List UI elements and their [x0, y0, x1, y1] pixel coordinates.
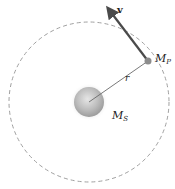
orbit-diagram: v MP r MS	[0, 0, 175, 189]
planet-label: MP	[154, 52, 171, 66]
sun-label: MS	[111, 109, 128, 123]
radius-label: r	[125, 73, 130, 83]
velocity-label: v	[116, 4, 124, 15]
planet-body	[145, 58, 152, 65]
velocity-vector	[110, 11, 148, 61]
radius-vector	[89, 61, 148, 102]
